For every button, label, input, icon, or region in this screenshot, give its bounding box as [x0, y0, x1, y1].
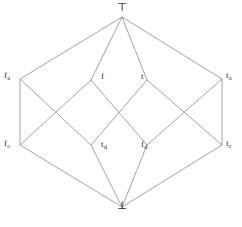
node-label-t: t — [141, 72, 144, 81]
node-label-subscript-fd: d — [144, 143, 148, 150]
node-label-base-bot: ⊥ — [117, 199, 127, 211]
node-label-subscript-tc: c — [229, 142, 232, 149]
hasse-diagram: ⊤fafttafctdfdtc⊥ — [0, 0, 242, 227]
node-label-td: td — [101, 140, 107, 149]
lattice-edge-fd-bot — [122, 145, 147, 207]
node-label-base-top: ⊤ — [117, 1, 127, 13]
lattice-edge-top-ta — [122, 17, 222, 79]
node-label-base-t: t — [141, 71, 144, 81]
node-label-fd: fd — [141, 140, 148, 149]
node-label-tc: tc — [226, 139, 232, 148]
node-label-subscript-td: d — [104, 143, 108, 150]
node-label-top: ⊤ — [117, 2, 127, 13]
node-label-bot: ⊥ — [117, 200, 127, 211]
edges-group — [20, 17, 222, 207]
node-label-fc: fc — [4, 139, 10, 148]
node-label-f: f — [101, 72, 104, 81]
node-label-subscript-fc: c — [7, 142, 10, 149]
node-label-base-f: f — [101, 71, 104, 81]
node-label-ta: ta — [226, 71, 232, 80]
node-label-fa: fa — [4, 71, 10, 80]
lattice-edges-layer — [0, 0, 242, 227]
lattice-edge-tc-bot — [122, 145, 222, 207]
node-label-subscript-fa: a — [7, 74, 10, 81]
node-label-subscript-ta: a — [229, 74, 232, 81]
